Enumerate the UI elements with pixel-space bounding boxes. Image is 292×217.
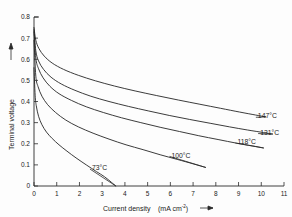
x-tick-label-10: 10 (258, 190, 266, 197)
x-axis-title: Current density (mA cm-2) (103, 204, 213, 213)
x-tick-label-4: 4 (123, 190, 127, 197)
x-tick-label-3: 3 (100, 190, 104, 197)
y-tick-label-3: 0.3 (21, 119, 30, 126)
series-lines-group (34, 28, 273, 186)
series-line-147C (34, 28, 266, 117)
y-tick-label-2: 0.2 (21, 140, 30, 147)
leader-line-0 (90, 169, 116, 186)
series-label-147C: 147°C (258, 112, 277, 119)
y-tick-label-0: 0 (26, 182, 30, 189)
y-tick-label-5: 0.5 (21, 77, 30, 84)
y-tick-label-1: 0.1 (21, 161, 30, 168)
axis-spines (34, 17, 284, 186)
x-tick-label-5: 5 (146, 190, 150, 197)
y-tick-label-8: 0.8 (21, 13, 30, 20)
y-axis-label-text: Terminal voltage (8, 99, 16, 150)
series-label-131C: 131°C (260, 129, 279, 136)
series-line-131C (34, 30, 273, 134)
x-tick-label-2: 2 (78, 190, 82, 197)
x-tick-label-6: 6 (169, 190, 173, 197)
y-tick-labels: 00.10.20.30.40.50.60.70.8 (21, 13, 30, 189)
chart-canvas: 01234567891011 00.10.20.30.40.50.60.70.8… (0, 0, 292, 217)
series-label-118C: 118°C (237, 138, 256, 145)
x-axis-unit: (mA cm-2) (158, 204, 188, 213)
y-tick-label-4: 0.4 (21, 98, 30, 105)
x-axis-label-text: Current density (103, 205, 151, 213)
y-tick-label-6: 0.6 (21, 56, 30, 63)
series-label-73C: 73°C (92, 164, 107, 171)
x-tick-label-8: 8 (214, 190, 218, 197)
axes-group (34, 17, 284, 186)
tick-marks-group (34, 17, 284, 186)
x-tick-label-0: 0 (32, 190, 36, 197)
x-tick-label-7: 7 (191, 190, 195, 197)
x-tick-labels: 01234567891011 (32, 190, 288, 197)
figure-polarization-curves: 01234567891011 00.10.20.30.40.50.60.70.8… (0, 0, 292, 217)
x-axis-arrow-head (208, 206, 213, 210)
x-tick-label-1: 1 (55, 190, 59, 197)
series-line-118C (34, 32, 264, 148)
y-axis-title: Terminal voltage (8, 43, 16, 150)
series-annotations: 73°C100°C118°C131°C147°C (92, 112, 279, 171)
y-tick-label-7: 0.7 (21, 35, 30, 42)
series-label-100C: 100°C (172, 152, 191, 159)
x-tick-label-9: 9 (237, 190, 241, 197)
x-tick-label-11: 11 (281, 190, 288, 197)
y-axis-arrow-head (9, 43, 13, 49)
